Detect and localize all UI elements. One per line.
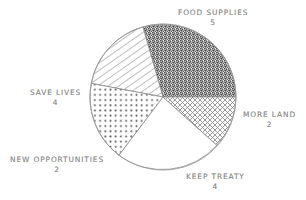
pie-label-food-supplies-name: FOOD SUPPLIES	[178, 8, 248, 18]
pie-label-new-opportunities: NEW OPPORTUNITIES 2	[10, 155, 104, 175]
pie-label-keep-treaty-value: 4	[186, 182, 245, 192]
pie-label-more-land: MORE LAND 2	[243, 110, 296, 130]
pie-label-keep-treaty-name: KEEP TREATY	[186, 172, 245, 182]
pie-label-new-opportunities-name: NEW OPPORTUNITIES	[10, 155, 104, 165]
pie-label-save-lives-value: 4	[30, 98, 81, 108]
pie-label-more-land-value: 2	[243, 120, 296, 130]
pie-label-more-land-name: MORE LAND	[243, 110, 296, 120]
pie-label-keep-treaty: KEEP TREATY 4	[186, 172, 245, 192]
pie-label-save-lives-name: SAVE LIVES	[30, 88, 81, 98]
pie-label-save-lives: SAVE LIVES 4	[30, 88, 81, 108]
pie-label-food-supplies: FOOD SUPPLIES 5	[178, 8, 248, 28]
pie-label-food-supplies-value: 5	[178, 18, 248, 28]
pie-label-new-opportunities-value: 2	[10, 165, 104, 175]
pie-chart-page: FOOD SUPPLIES 5 MORE LAND 2 KEEP TREATY …	[0, 0, 306, 200]
